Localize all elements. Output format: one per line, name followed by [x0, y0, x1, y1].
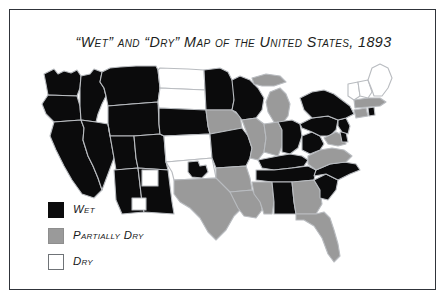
state-florida: [296, 212, 340, 262]
state-oregon: [42, 95, 81, 122]
dry-pocket-colorado: [142, 170, 158, 186]
map-legend: Wet Partially Dry Dry: [48, 201, 178, 279]
state-connecticut: [354, 108, 368, 118]
state-minnesota: [204, 68, 236, 110]
legend-label-dry: Dry: [73, 255, 93, 267]
state-missouri: [210, 128, 252, 168]
state-montana: [100, 66, 160, 106]
state-northdakota: [158, 68, 205, 90]
state-newyork: [300, 90, 354, 120]
page-title: “Wet” and “Dry” Map of the United States…: [10, 34, 447, 50]
state-ohio: [278, 120, 302, 154]
figure-frame: “Wet” and “Dry” Map of the United States…: [9, 9, 436, 290]
state-massachusetts: [354, 98, 386, 108]
legend-item-dry: Dry: [48, 253, 178, 279]
legend-label-wet: Wet: [73, 203, 95, 215]
figure-container: “Wet” and “Dry” Map of the United States…: [0, 0, 447, 301]
legend-item-partially-dry: Partially Dry: [48, 227, 178, 253]
legend-item-wet: Wet: [48, 201, 178, 227]
state-washington: [44, 69, 81, 96]
state-indiana: [264, 122, 282, 156]
state-michigan-upper: [252, 74, 286, 86]
legend-label-partially-dry: Partially Dry: [73, 229, 144, 241]
legend-swatch-wet: [48, 202, 64, 218]
legend-swatch-dry: [48, 254, 64, 270]
state-pennsylvania: [300, 116, 338, 136]
state-nebraska: [159, 108, 210, 136]
state-rhodeisland: [368, 107, 375, 116]
state-wyoming: [108, 102, 160, 136]
legend-swatch-partially-dry: [48, 228, 64, 244]
state-kansas: [164, 134, 212, 162]
state-michigan: [266, 88, 290, 124]
state-colorado: [134, 134, 168, 170]
state-southdakota: [158, 88, 206, 110]
